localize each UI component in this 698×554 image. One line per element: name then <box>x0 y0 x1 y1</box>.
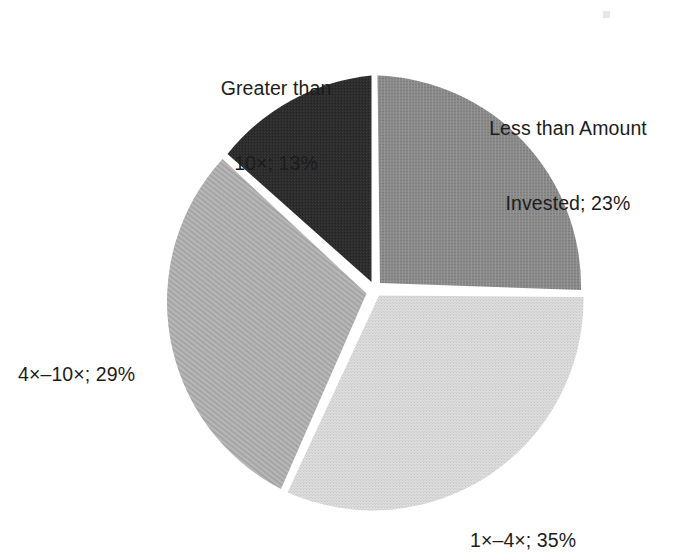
pie-label-four-to-ten-x: 4×–10×; 29% <box>18 312 188 437</box>
pie-label-less-than-amount-invested-line2: Invested; 23% <box>468 191 668 216</box>
pie-label-greater-than-ten-x-line2: 10×; 13% <box>196 151 356 176</box>
pie-label-one-to-four-x: 1×–4×; 35% <box>470 478 640 554</box>
pie-label-less-than-amount-invested: Less than Amount Invested; 23% <box>468 66 668 266</box>
pie-label-less-than-amount-invested-line1: Less than Amount <box>468 116 668 141</box>
pie-label-one-to-four-x-line1: 1×–4×; 35% <box>470 528 640 553</box>
pie-label-four-to-ten-x-line1: 4×–10×; 29% <box>18 362 188 387</box>
pie-label-greater-than-ten-x: Greater than 10×; 13% <box>196 26 356 226</box>
scan-artifact-speck <box>603 11 610 18</box>
pie-label-greater-than-ten-x-line1: Greater than <box>196 76 356 101</box>
